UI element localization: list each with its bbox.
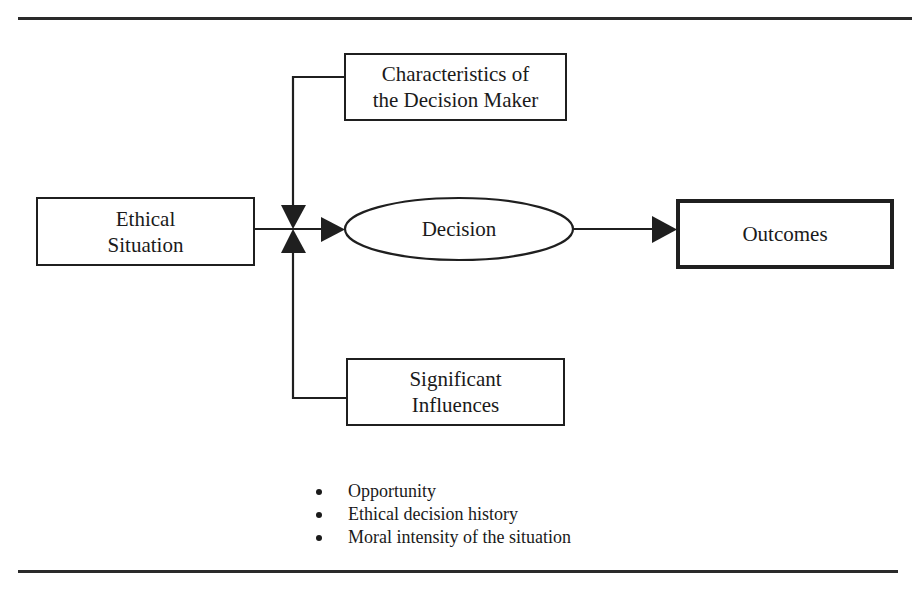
ethical-situation-label-1: Ethical: [116, 206, 175, 232]
connector-influences: [293, 252, 346, 398]
bullet-icon: [316, 489, 322, 495]
outcomes-label: Outcomes: [742, 221, 827, 247]
arrow-up-icon: [281, 229, 306, 253]
ethical-situation-label-2: Situation: [108, 232, 184, 258]
list-item-text: Ethical decision history: [348, 504, 518, 524]
characteristics-box: Characteristics of the Decision Maker: [344, 53, 567, 121]
significant-influences-box: Significant Influences: [346, 358, 565, 426]
arrow-right-icon: [652, 216, 677, 243]
list-item: Moral intensity of the situation: [314, 526, 571, 549]
connector-characteristics: [293, 77, 344, 206]
outcomes-box: Outcomes: [676, 199, 894, 269]
significant-influences-label-2: Influences: [412, 392, 499, 418]
bullet-icon: [316, 512, 322, 518]
decision-text: Decision: [422, 217, 497, 242]
list-item-text: Opportunity: [348, 481, 436, 501]
characteristics-label-1: Characteristics of: [382, 61, 530, 87]
arrow-right-icon: [321, 217, 345, 242]
ethical-situation-box: Ethical Situation: [36, 197, 255, 266]
list-item: Opportunity: [314, 480, 571, 503]
arrow-down-icon: [281, 205, 306, 229]
characteristics-label-2: the Decision Maker: [373, 87, 539, 113]
influences-list: Opportunity Ethical decision history Mor…: [314, 480, 571, 549]
bullet-icon: [316, 535, 322, 541]
decision-label: Decision: [345, 198, 573, 260]
significant-influences-label-1: Significant: [409, 366, 501, 392]
list-item: Ethical decision history: [314, 503, 571, 526]
list-item-text: Moral intensity of the situation: [348, 527, 571, 547]
